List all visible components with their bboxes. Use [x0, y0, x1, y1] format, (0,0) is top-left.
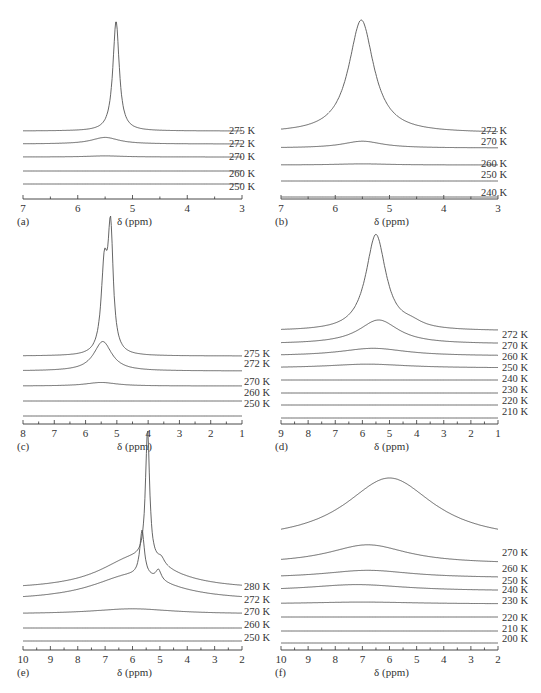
temperature-label: 260 K — [502, 563, 528, 574]
x-tick-label: 4 — [185, 653, 191, 665]
x-tick-label: 7 — [360, 653, 366, 665]
x-tick-label: 7 — [278, 202, 284, 214]
temperature-label: 260 K — [229, 168, 255, 179]
temperature-label: 260 K — [244, 619, 270, 630]
spectrum-trace-270k — [23, 156, 242, 157]
panel-label: (e) — [17, 666, 30, 679]
spectrum-trace-272k — [23, 137, 242, 144]
temperature-label: 280 K — [244, 581, 270, 592]
temperature-label: 270 K — [244, 606, 270, 617]
x-tick-label: 3 — [239, 202, 245, 214]
x-tick-label: 5 — [157, 653, 163, 665]
temperature-label: 260 K — [502, 351, 528, 362]
panel-label: (a) — [17, 215, 30, 228]
temperature-label: 240 K — [502, 373, 528, 384]
spectrum-trace-260k — [281, 164, 498, 165]
x-tick-label: 5 — [387, 202, 393, 214]
x-tick-label: 4 — [185, 202, 191, 214]
panel-c: 87654321δ (ppm)(c)275 K272 K270 K260 K25… — [17, 216, 270, 453]
x-axis-label: δ (ppm) — [117, 666, 152, 679]
x-tick-label: 3 — [495, 202, 501, 214]
temperature-label: 210 K — [502, 406, 528, 417]
x-tick-label: 10 — [276, 653, 288, 665]
x-tick-label: 3 — [468, 653, 474, 665]
panel-label: (f) — [275, 666, 286, 679]
x-tick-label: 8 — [333, 653, 339, 665]
spectrum-trace-272k — [281, 234, 498, 330]
x-tick-label: 2 — [495, 653, 501, 665]
spectrum-trace-275k — [23, 22, 242, 131]
spectrum-trace-240k — [281, 585, 498, 590]
x-tick-label: 7 — [102, 653, 108, 665]
panel-e: 1098765432δ (ppm)(e)280 K272 K270 K260 K… — [17, 431, 270, 679]
spectrum-trace-250k — [281, 364, 498, 367]
temperature-label: 250 K — [244, 632, 270, 643]
x-axis-label: δ (ppm) — [117, 215, 152, 228]
temperature-label: 270 K — [229, 151, 255, 162]
temperature-label: 272 K — [481, 125, 507, 136]
x-tick-label: 8 — [20, 427, 26, 439]
spectrum-trace-250k — [281, 570, 498, 577]
x-tick-label: 6 — [130, 653, 136, 665]
x-tick-label: 7 — [20, 202, 26, 214]
spectrum-trace-270k — [23, 383, 242, 386]
x-tick-label: 6 — [387, 653, 393, 665]
temperature-label: 270 K — [481, 136, 507, 147]
temperature-label: 220 K — [502, 612, 528, 623]
x-tick-label: 1 — [495, 427, 501, 439]
spectrum-trace-260k — [281, 545, 498, 562]
x-tick-label: 5 — [130, 202, 136, 214]
temperature-label: 270 K — [244, 376, 270, 387]
panel-label: (b) — [275, 215, 288, 228]
temperature-label: 250 K — [229, 181, 255, 192]
spectrum-trace-270k — [281, 141, 498, 148]
x-tick-label: 4 — [441, 202, 447, 214]
x-tick-label: 9 — [48, 653, 54, 665]
spectrum-trace-270k — [281, 320, 498, 343]
x-tick-label: 8 — [305, 427, 311, 439]
x-tick-label: 3 — [212, 653, 218, 665]
temperature-label: 275 K — [229, 125, 255, 136]
temperature-label: 220 K — [502, 395, 528, 406]
temperature-label: 230 K — [502, 595, 528, 606]
nmr-figure: 76543δ (ppm)(a)275 K272 K270 K260 K250 K… — [0, 0, 541, 693]
temperature-label: 250 K — [481, 169, 507, 180]
spectrum-trace-272k — [281, 20, 498, 132]
x-tick-label: 3 — [441, 427, 447, 439]
panel-label: (c) — [17, 440, 30, 453]
x-tick-label: 5 — [387, 427, 393, 439]
panel-f: 1098765432δ (ppm)(f)270 K260 K250 K240 K… — [275, 478, 528, 679]
temperature-label: 272 K — [502, 329, 528, 340]
x-tick-label: 2 — [468, 427, 474, 439]
temperature-label: 260 K — [244, 387, 270, 398]
panel-label: (d) — [275, 440, 288, 453]
x-tick-label: 6 — [83, 427, 89, 439]
temperature-label: 260 K — [481, 158, 507, 169]
temperature-label: 240 K — [502, 584, 528, 595]
x-axis-label: δ (ppm) — [374, 215, 409, 228]
temperature-label: 200 K — [502, 633, 528, 644]
panel-b: 76543δ (ppm)(b)272 K270 K260 K250 K240 K — [275, 20, 507, 228]
x-tick-label: 1 — [239, 427, 245, 439]
temperature-label: 270 K — [502, 340, 528, 351]
x-tick-label: 5 — [114, 427, 120, 439]
x-axis-label: δ (ppm) — [374, 666, 409, 679]
spectrum-trace-260k — [281, 348, 498, 355]
x-tick-label: 4 — [414, 427, 420, 439]
x-tick-label: 9 — [305, 653, 311, 665]
spectrum-trace-230k — [281, 602, 498, 604]
temperature-label: 230 K — [502, 384, 528, 395]
temperature-label: 250 K — [244, 398, 270, 409]
panel-a: 76543δ (ppm)(a)275 K272 K270 K260 K250 K — [17, 22, 255, 228]
panel-d: 987654321δ (ppm)(d)272 K270 K260 K250 K2… — [275, 234, 528, 453]
spectrum-trace-270k — [23, 609, 242, 613]
temperature-label: 272 K — [244, 358, 270, 369]
x-tick-label: 6 — [333, 202, 339, 214]
temperature-label: 250 K — [502, 362, 528, 373]
spectrum-trace-280k — [23, 431, 242, 586]
x-axis-label: δ (ppm) — [374, 440, 409, 453]
x-tick-label: 7 — [52, 427, 58, 439]
x-tick-label: 6 — [360, 427, 366, 439]
x-tick-label: 3 — [177, 427, 183, 439]
spectrum-trace-270k — [281, 478, 498, 529]
